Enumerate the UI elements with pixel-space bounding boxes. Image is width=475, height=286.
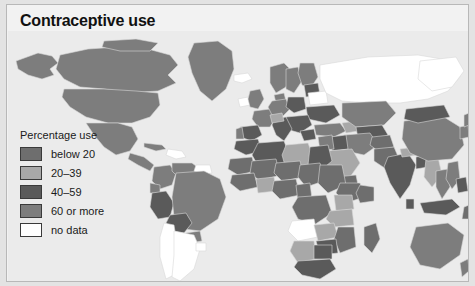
region-kenya [334, 195, 354, 211]
legend-swatch-no-data [20, 223, 42, 237]
legend-label-60-or-more: 60 or more [51, 205, 104, 217]
region-belarus [308, 91, 328, 105]
region-philippines [456, 177, 468, 193]
legend-item-no-data: no data [20, 221, 104, 239]
region-sri-lanka [406, 199, 414, 209]
legend-swatch-60-or-more [20, 204, 42, 218]
legend-swatch-below-20 [20, 147, 42, 161]
legend-label-below-20: below 20 [51, 148, 95, 160]
legend-label-40-59: 40–59 [51, 186, 82, 198]
legend-swatch-20-39 [20, 166, 42, 180]
region-japan [464, 113, 469, 127]
legend-label-20-39: 20–39 [51, 167, 82, 179]
legend-item-40-59: 40–59 [20, 183, 104, 201]
legend-item-60-or-more: 60 or more [20, 202, 104, 220]
legend-item-below-20: below 20 [20, 145, 104, 163]
map-legend: Percentage use below 20 20–39 40–59 60 o… [20, 129, 104, 240]
region-alps-central [270, 113, 284, 123]
region-ecuador [150, 183, 160, 193]
region-botswana [314, 245, 332, 259]
legend-swatch-40-59 [20, 185, 42, 199]
legend-item-20-39: 20–39 [20, 164, 104, 182]
map-figure: Contraceptive use [6, 4, 469, 282]
legend-title: Percentage use [20, 129, 104, 141]
page-title: Contraceptive use [20, 12, 155, 30]
region-uruguay [196, 243, 206, 251]
legend-label-no-data: no data [51, 224, 88, 236]
region-somalia [356, 185, 374, 203]
